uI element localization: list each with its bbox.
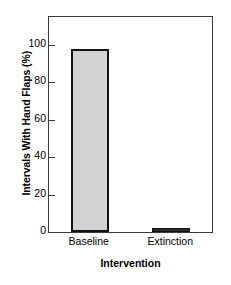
bar-baseline (71, 49, 109, 232)
x-tick-label-extinction: Extinction (120, 236, 220, 247)
y-tick-mark (49, 195, 55, 196)
y-tick-mark (49, 82, 55, 83)
y-tick-label: 20 (34, 188, 46, 199)
y-tick-label: 80 (34, 75, 46, 86)
plot-frame: 020406080100 (48, 16, 213, 233)
y-tick-label: 0 (40, 225, 46, 236)
bar-extinction (152, 228, 190, 232)
y-tick-mark (49, 157, 55, 158)
x-axis-title: Intervention (48, 258, 213, 269)
y-axis-title: Intervals With Hand Flaps (%) (21, 23, 32, 223)
plot-area: 020406080100 (49, 17, 212, 232)
y-tick-mark (49, 232, 55, 233)
y-tick-label: 40 (34, 150, 46, 161)
y-tick-mark (49, 45, 55, 46)
y-tick-label: 100 (28, 38, 46, 49)
bar-chart-figure: Intervals With Hand Flaps (%) 0204060801… (0, 0, 231, 285)
y-tick-label: 60 (34, 113, 46, 124)
y-tick-mark (49, 120, 55, 121)
